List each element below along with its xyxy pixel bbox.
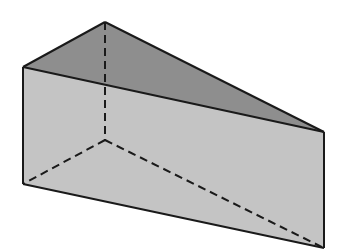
triangular-prism-diagram [0, 0, 341, 251]
